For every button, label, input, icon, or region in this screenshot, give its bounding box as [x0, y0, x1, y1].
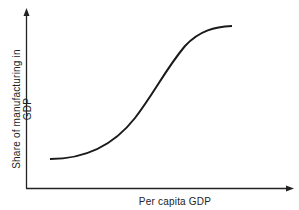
- s-curve: [50, 26, 232, 159]
- chart: [0, 0, 299, 210]
- y-axis-label: Share of manufacturing in GDP: [11, 44, 33, 174]
- x-axis-label: Per capita GDP: [120, 196, 230, 207]
